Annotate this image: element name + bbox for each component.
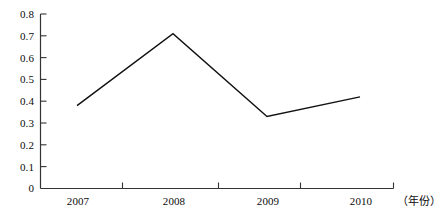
y-tick-label-0.3: 0.3	[2, 118, 34, 129]
y-tick-label-0.7: 0.7	[2, 31, 34, 42]
y-tick-label-0.2: 0.2	[2, 140, 34, 151]
x-axis-caption: （年份）	[397, 196, 441, 207]
data-line-series-1	[77, 34, 360, 117]
chart-plot-area	[0, 0, 444, 223]
line-chart: 0.8 0.7 0.6 0.5 0.4 0.3 0.2 0.1 0 2007 2…	[0, 0, 444, 223]
x-tick-label-2007: 2007	[52, 196, 104, 207]
y-tick-label-0.6: 0.6	[2, 53, 34, 64]
y-tick-label-0: 0	[2, 183, 34, 194]
y-axis-ticks	[41, 14, 47, 167]
y-tick-label-0.4: 0.4	[2, 96, 34, 107]
x-tick-label-2008: 2008	[148, 196, 200, 207]
x-tick-label-2010: 2010	[335, 196, 387, 207]
x-axis-ticks	[123, 183, 394, 189]
y-tick-label-0.5: 0.5	[2, 74, 34, 85]
y-tick-label-0.1: 0.1	[2, 162, 34, 173]
x-tick-label-2009: 2009	[242, 196, 294, 207]
y-tick-label-0.8: 0.8	[2, 9, 34, 20]
